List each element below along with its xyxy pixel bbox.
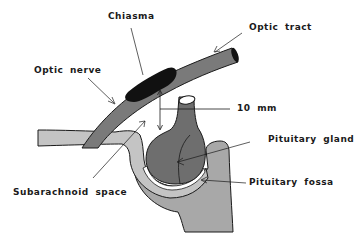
label-optic-tract: Optic tract <box>249 23 312 32</box>
label-distance: 10 mm <box>237 104 277 113</box>
label-pituitary-gland: Pituitary gland <box>268 135 354 144</box>
label-optic-nerve: Optic nerve <box>34 66 101 75</box>
label-chiasma: Chiasma <box>108 12 154 21</box>
pituitary-gland <box>146 97 205 184</box>
label-pituitary-fossa: Pituitary fossa <box>249 178 334 187</box>
label-subarachnoid-space: Subarachnoid space <box>13 188 127 197</box>
